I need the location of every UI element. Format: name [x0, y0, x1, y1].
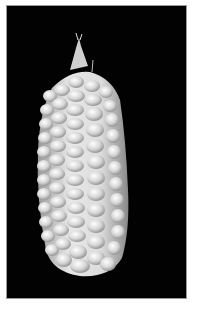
corn-tip	[70, 33, 93, 72]
corn-photo	[0, 0, 199, 311]
